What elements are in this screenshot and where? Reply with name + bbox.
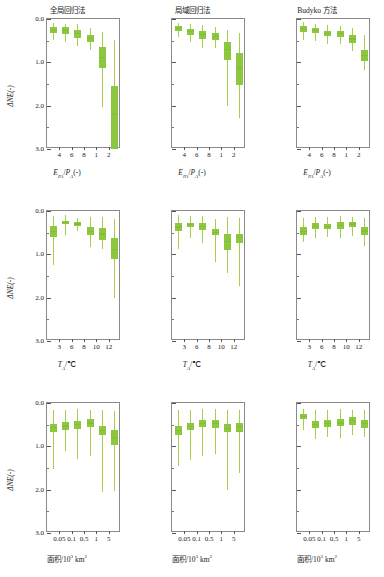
x-tick-label: 8 bbox=[82, 151, 86, 159]
x-tick-label: 5 bbox=[107, 535, 111, 543]
whisker-line bbox=[114, 411, 115, 491]
x-tick-label: 1 bbox=[95, 151, 99, 159]
box-plot-item bbox=[87, 19, 94, 147]
box-plot-item bbox=[236, 19, 243, 147]
x-tick bbox=[197, 531, 198, 534]
x-tick-label: 6 bbox=[70, 343, 74, 351]
x-tick-label: 8 bbox=[332, 343, 336, 351]
x-tick bbox=[59, 339, 60, 342]
median-line bbox=[300, 28, 307, 29]
x-tick-label: 0.1 bbox=[67, 535, 76, 543]
x-tick bbox=[309, 147, 310, 150]
x-tick-label: 5 bbox=[232, 535, 236, 543]
box-plot-item bbox=[187, 211, 194, 339]
whisker-line bbox=[65, 410, 66, 451]
x-tick bbox=[359, 531, 360, 534]
x-tick bbox=[322, 531, 323, 534]
y-tick-minor bbox=[47, 41, 49, 42]
box-plot-item bbox=[224, 19, 231, 147]
box-plot-item bbox=[349, 19, 356, 147]
x-tick bbox=[109, 339, 110, 342]
whisker-line bbox=[215, 219, 216, 262]
median-line bbox=[212, 36, 219, 37]
x-tick bbox=[197, 147, 198, 150]
whisker-line bbox=[303, 409, 304, 430]
x-tick-label: 3 bbox=[58, 343, 62, 351]
x-tick-label: 0.1 bbox=[317, 535, 326, 543]
x-tick-label: 0.5 bbox=[205, 535, 214, 543]
median-line bbox=[300, 416, 307, 417]
whisker-line bbox=[190, 216, 191, 238]
box-plot-item bbox=[50, 19, 57, 147]
median-line bbox=[99, 430, 106, 431]
box-plot-item bbox=[62, 403, 69, 531]
y-tick-label: 2.0 bbox=[35, 102, 44, 109]
plot-area: 0.050.10.515 bbox=[296, 402, 370, 532]
box-plot-item bbox=[337, 403, 344, 531]
box-rect bbox=[236, 234, 243, 244]
y-tick-label: 3.0 bbox=[35, 146, 44, 153]
median-line bbox=[337, 422, 344, 423]
x-tick-label: 0.05 bbox=[303, 535, 315, 543]
x-tick-label: 0.5 bbox=[330, 535, 339, 543]
y-tick-minor bbox=[297, 319, 299, 320]
median-line bbox=[87, 38, 94, 39]
x-tick bbox=[346, 531, 347, 534]
x-tick bbox=[72, 531, 73, 534]
y-tick-label: 2.0 bbox=[35, 294, 44, 301]
plot-area: 3681012 bbox=[171, 210, 245, 340]
y-tick-minor bbox=[172, 276, 174, 277]
box-plot-item bbox=[349, 211, 356, 339]
x-tick bbox=[184, 147, 185, 150]
x-tick bbox=[309, 531, 310, 534]
median-line bbox=[361, 55, 368, 56]
y-tick-minor bbox=[172, 468, 174, 469]
y-tick-minor bbox=[297, 425, 299, 426]
box-plot-item bbox=[74, 403, 81, 531]
x-tick-label: 6 bbox=[195, 151, 199, 159]
box-plot-item bbox=[199, 19, 206, 147]
x-tick bbox=[221, 339, 222, 342]
x-tick bbox=[84, 147, 85, 150]
box-plot-item bbox=[337, 19, 344, 147]
box-plot-item bbox=[175, 403, 182, 531]
x-tick-label: 1 bbox=[220, 151, 224, 159]
plot-area: 0.050.10.515 bbox=[171, 402, 245, 532]
y-tick-minor bbox=[47, 319, 49, 320]
x-tick-label: 10 bbox=[93, 343, 100, 351]
median-line bbox=[212, 232, 219, 233]
y-tick bbox=[172, 149, 176, 150]
box-plot-item bbox=[175, 211, 182, 339]
x-tick-label: 3 bbox=[183, 343, 187, 351]
whisker-line bbox=[53, 410, 54, 469]
x-axis-title: 面积/103 km2 bbox=[8, 552, 126, 564]
panel-r2-c1: 0.050.10.515面积/103 km2 bbox=[133, 384, 251, 576]
box-plot-item bbox=[212, 211, 219, 339]
y-tick bbox=[47, 533, 51, 534]
box-plot-item bbox=[50, 403, 57, 531]
x-tick-label: 4 bbox=[308, 151, 312, 159]
median-line bbox=[324, 423, 331, 424]
panel-title: Budyko 方法 bbox=[258, 6, 376, 15]
x-tick bbox=[359, 147, 360, 150]
median-line bbox=[199, 34, 206, 35]
x-axis-title: EPA/PA(-) bbox=[8, 168, 126, 181]
y-tick-minor bbox=[47, 84, 49, 85]
box-plot-item bbox=[236, 403, 243, 531]
median-line bbox=[87, 231, 94, 232]
y-tick-minor bbox=[47, 425, 49, 426]
box-plot-item bbox=[224, 211, 231, 339]
panel-row-2: 0.01.02.03.00.050.10.515面积/103 km2ΔNE(-)… bbox=[0, 384, 384, 576]
x-tick bbox=[322, 339, 323, 342]
x-tick bbox=[234, 339, 235, 342]
panel-r0-c1: 局域回归法46812EPA/PA(-) bbox=[133, 0, 251, 192]
panel-title: 局域回归法 bbox=[133, 6, 251, 15]
x-tick bbox=[234, 531, 235, 534]
y-axis-title: ΔNE(-) bbox=[6, 469, 15, 490]
box-plot-item bbox=[324, 19, 331, 147]
x-tick bbox=[234, 147, 235, 150]
x-tick-label: 3 bbox=[308, 343, 312, 351]
median-line bbox=[187, 224, 194, 225]
x-tick-label: 2 bbox=[232, 151, 236, 159]
panel-row-1: 0.01.02.03.03681012TA/℃ΔNE(-)3681012TA/℃… bbox=[0, 192, 384, 384]
